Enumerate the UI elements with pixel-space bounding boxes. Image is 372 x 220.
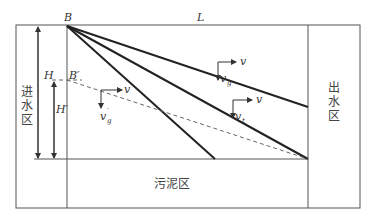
sedimentation-tank-diagram: B L H B′ H′ v v v v g v t v g ′ 进 水 区 出 … — [0, 0, 372, 220]
inlet-zone-char-1: 进 — [21, 85, 33, 99]
label-H: H — [43, 69, 54, 82]
label-vt-sub: t — [242, 117, 245, 125]
label-vg-sub: g — [227, 79, 232, 87]
trajectory-steep — [67, 26, 215, 159]
inlet-zone-char-3: 区 — [21, 113, 33, 127]
outlet-zone-char-2: 水 — [328, 95, 340, 109]
label-vg-prime: v — [100, 110, 107, 123]
label-vg-prime-sub: g — [107, 117, 112, 125]
label-B-prime: B′ — [68, 69, 80, 82]
label-vg: v — [220, 72, 227, 85]
label-B: B — [63, 11, 72, 24]
outlet-zone-char-3: 区 — [328, 109, 340, 123]
label-v-mid: v — [256, 93, 263, 106]
outlet-zone-char-1: 出 — [328, 81, 340, 95]
label-vg-prime-sup: ′ — [107, 107, 109, 115]
trajectory-shallow — [67, 26, 308, 107]
label-v-top: v — [240, 55, 247, 68]
inlet-zone-char-2: 水 — [21, 99, 33, 113]
trajectory-critical — [67, 26, 308, 159]
label-L: L — [196, 11, 204, 24]
label-H-prime: H′ — [55, 103, 69, 116]
sludge-zone-label: 污泥区 — [154, 177, 190, 191]
label-v-low: v — [124, 83, 131, 96]
label-vt: v — [235, 110, 242, 123]
